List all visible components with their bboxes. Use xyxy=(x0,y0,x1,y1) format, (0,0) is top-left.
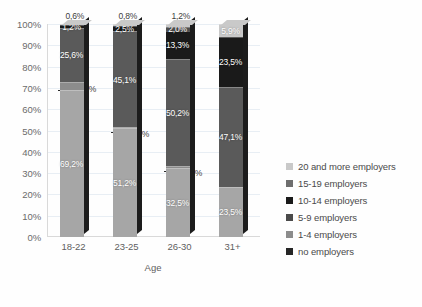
bar-segment-label: 13,3% xyxy=(166,40,189,50)
stacked-bar-chart: 0%10%20%30%40%50%60%70%80%90%100% 3,5%0,… xyxy=(0,0,422,307)
chart-legend: 20 and more employers15-19 employers10-1… xyxy=(286,158,420,260)
y-axis-tick-label: 60% xyxy=(22,104,41,115)
legend-item-label: 15-19 employers xyxy=(298,178,367,189)
bar-segment[interactable]: 25,6% xyxy=(60,28,84,83)
bar-side-face xyxy=(190,17,195,234)
x-axis-tick-label: 31+ xyxy=(206,241,259,252)
x-axis-labels: 18-2223-2526-3031+ xyxy=(47,241,259,259)
bar-group: 69,2%25,6%1,2% xyxy=(47,24,100,237)
x-axis-title: Age xyxy=(47,262,259,273)
y-axis-tick-label: 40% xyxy=(22,146,41,157)
legend-item-label: 20 and more employers xyxy=(298,161,396,172)
bar-segment-label: 50,2% xyxy=(166,108,189,118)
legend-item[interactable]: 10-14 employers xyxy=(286,192,420,209)
bar-segment-label: 32,5% xyxy=(166,198,189,208)
bar-segment[interactable]: 13,3% xyxy=(166,31,190,59)
legend-swatch-icon xyxy=(286,214,293,221)
bars-layer: 3,5%0,6%69,2%25,6%1,2%0,4%0,8%51,2%45,1%… xyxy=(47,24,259,237)
bar-segment[interactable]: 23,5% xyxy=(219,187,243,237)
legend-item[interactable]: 15-19 employers xyxy=(286,175,420,192)
bar-segment[interactable]: 69,2% xyxy=(60,90,84,237)
bar-segment[interactable]: 32,5% xyxy=(166,168,190,237)
y-axis-tick-label: 90% xyxy=(22,40,41,51)
bar-side-face xyxy=(243,17,248,234)
bar-segment-label: 69,2% xyxy=(60,159,83,169)
y-axis-tick-label: 80% xyxy=(22,61,41,72)
y-axis-tick-label: 10% xyxy=(22,210,41,221)
bar-segment[interactable]: 47,1% xyxy=(219,87,243,187)
y-axis-tick-label: 0% xyxy=(27,232,41,243)
legend-item-label: no employers xyxy=(298,246,354,257)
legend-item-label: 5-9 employers xyxy=(298,212,357,223)
x-axis-tick-label: 18-22 xyxy=(47,241,100,252)
legend-swatch-icon xyxy=(286,197,293,204)
x-axis-tick-label: 26-30 xyxy=(153,241,206,252)
y-axis-tick-label: 20% xyxy=(22,189,41,200)
bar-segment[interactable]: 5,9% xyxy=(219,24,243,37)
y-axis: 0%10%20%30%40%50%60%70%80%90%100% xyxy=(0,24,44,237)
bar-stack[interactable]: 51,2%45,1%2,5% xyxy=(113,24,137,237)
legend-swatch-icon xyxy=(286,248,293,255)
bar-segment[interactable]: 2,5% xyxy=(113,26,137,31)
bar-segment[interactable] xyxy=(113,127,137,128)
x-axis-tick-label: 23-25 xyxy=(100,241,153,252)
bar-segment-label: 45,1% xyxy=(113,75,136,85)
legend-swatch-icon xyxy=(286,231,293,238)
y-axis-tick-label: 100% xyxy=(17,19,41,30)
legend-item[interactable]: 1-4 employers xyxy=(286,226,420,243)
legend-item-label: 1-4 employers xyxy=(298,229,357,240)
legend-swatch-icon xyxy=(286,180,293,187)
bar-stack[interactable]: 32,5%50,2%13,3%2,0% xyxy=(166,24,190,237)
bar-segment-label: 5,9% xyxy=(221,26,240,36)
bar-segment-label: 23,5% xyxy=(219,207,242,217)
bar-segment-label: 25,6% xyxy=(60,50,83,60)
bar-segment[interactable] xyxy=(60,82,84,89)
bar-segment[interactable]: 50,2% xyxy=(166,59,190,166)
bar-segment[interactable]: 23,5% xyxy=(219,37,243,87)
legend-item[interactable]: 5-9 employers xyxy=(286,209,420,226)
bar-segment-label: 23,5% xyxy=(219,57,242,67)
legend-item[interactable]: 20 and more employers xyxy=(286,158,420,175)
y-axis-tick-label: 70% xyxy=(22,82,41,93)
legend-item-label: 10-14 employers xyxy=(298,195,367,206)
y-axis-tick-label: 50% xyxy=(22,125,41,136)
bar-stack[interactable]: 69,2%25,6%1,2% xyxy=(60,24,84,237)
y-axis-tick-label: 30% xyxy=(22,168,41,179)
bar-side-face xyxy=(137,17,142,234)
legend-item[interactable]: no employers xyxy=(286,243,420,260)
bar-side-face xyxy=(84,17,89,234)
bar-segment[interactable]: 51,2% xyxy=(113,128,137,237)
bar-stack[interactable]: 23,5%47,1%23,5%5,9% xyxy=(219,24,243,237)
bar-segment-label: 47,1% xyxy=(219,132,242,142)
bar-group: 51,2%45,1%2,5% xyxy=(100,24,153,237)
bar-group: 32,5%50,2%13,3%2,0% xyxy=(153,24,206,237)
legend-swatch-icon xyxy=(286,163,293,170)
bar-segment[interactable] xyxy=(166,166,190,168)
bar-segment-label: 51,2% xyxy=(113,178,136,188)
bar-group: 23,5%47,1%23,5%5,9% xyxy=(206,24,259,237)
bar-segment[interactable]: 45,1% xyxy=(113,31,137,127)
bar-segment[interactable]: 2,0% xyxy=(166,27,190,31)
bar-segment[interactable]: 1,2% xyxy=(60,25,84,28)
